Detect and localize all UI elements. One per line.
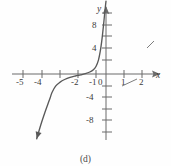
- figure-caption: (d): [0, 154, 171, 164]
- x-tick-label--1: -1: [89, 78, 97, 87]
- graph-canvas: [0, 0, 171, 166]
- y-tick-label-4: 4: [92, 44, 97, 53]
- y-tick-label--8: -8: [86, 116, 94, 125]
- x-tick-label-1: 1: [121, 78, 126, 87]
- y-axis-name: y: [97, 5, 101, 15]
- x-tick-label--2: -2: [71, 78, 79, 87]
- x-tick-label--4: -4: [34, 78, 42, 87]
- x-axis-name: x: [156, 71, 160, 81]
- x-tick-label--5: -5: [16, 78, 24, 87]
- origin-label: 0: [98, 78, 103, 87]
- curve-arrowhead: [36, 131, 42, 138]
- x-tick-label-2: 2: [139, 78, 144, 87]
- y-tick-label--4: -4: [86, 93, 94, 102]
- figure-graph-d: -5 -4 -2 -1 1 2 0 8 4 -4 -8 y x (d): [0, 0, 171, 166]
- y-tick-label-8: 8: [92, 21, 97, 30]
- stray-tick-right-icon: [147, 41, 154, 48]
